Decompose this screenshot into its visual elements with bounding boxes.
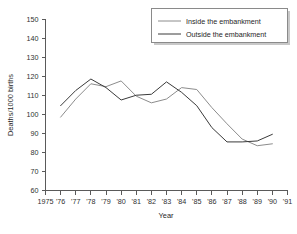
y-tick-label: 90 — [31, 129, 39, 138]
series-line-1 — [61, 81, 273, 146]
y-tick-label: 80 — [31, 148, 39, 157]
chart-legend: Inside the embankmentOutside the embankm… — [152, 9, 291, 46]
x-tick-label: '77 — [71, 197, 80, 206]
x-tick-label: '89 — [253, 197, 262, 206]
x-tick-label: '80 — [116, 197, 125, 206]
x-tick-label: '78 — [86, 197, 95, 206]
x-tick-label: '84 — [177, 197, 186, 206]
x-tick-label: '90 — [268, 197, 277, 206]
y-axis-title: Deaths/1000 births — [6, 74, 15, 136]
chart-figure: 60708090100110120130140150 Deaths/1000 b… — [0, 0, 297, 234]
legend-label-2: Outside the embankment — [186, 30, 266, 39]
y-axis: 60708090100110120130140150 Deaths/1000 b… — [6, 15, 46, 196]
y-tick-label: 140 — [27, 34, 39, 43]
x-tick-label: '76 — [56, 197, 65, 206]
x-axis: 1975'76'77'78'79'80'81'82'83'84'85'86'87… — [38, 191, 293, 221]
y-tick-label: 150 — [27, 15, 39, 24]
y-tick-label: 70 — [31, 167, 39, 176]
x-tick-label: '91 — [283, 197, 292, 206]
line-chart: 60708090100110120130140150 Deaths/1000 b… — [0, 0, 297, 234]
x-tick-label: '86 — [207, 197, 216, 206]
y-axis-ticks: 60708090100110120130140150 — [27, 15, 46, 196]
x-tick-label: '79 — [101, 197, 110, 206]
legend-label-1: Inside the embankment — [186, 17, 261, 26]
series-line-2 — [61, 79, 273, 142]
x-tick-label: '82 — [147, 197, 156, 206]
x-axis-ticks: 1975'76'77'78'79'80'81'82'83'84'85'86'87… — [38, 191, 293, 206]
y-tick-label: 110 — [27, 91, 38, 100]
x-tick-label: 1975 — [38, 197, 54, 206]
data-series-group — [61, 79, 273, 146]
y-tick-label: 60 — [31, 186, 39, 195]
x-tick-label: '85 — [192, 197, 201, 206]
y-tick-label: 130 — [27, 53, 39, 62]
x-axis-title: Year — [159, 211, 174, 220]
x-tick-label: '88 — [237, 197, 246, 206]
y-tick-label: 120 — [27, 72, 39, 81]
x-tick-label: '83 — [162, 197, 171, 206]
x-tick-label: '87 — [222, 197, 231, 206]
y-tick-label: 100 — [27, 110, 39, 119]
x-tick-label: '81 — [132, 197, 141, 206]
